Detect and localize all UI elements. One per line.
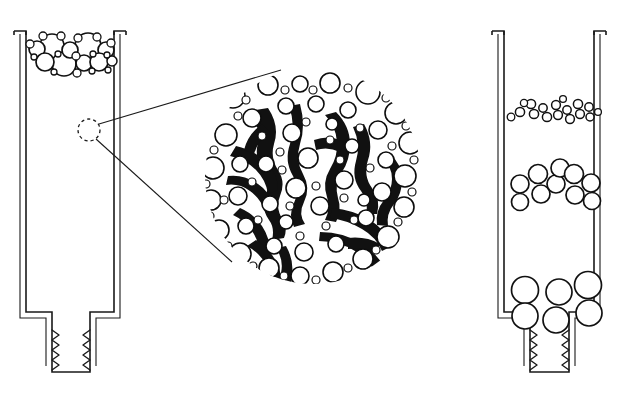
detail-bubble [278, 98, 294, 114]
detail-bubble [210, 146, 218, 154]
detail-bubble [358, 210, 374, 226]
detail-bubble [353, 249, 373, 269]
bubble [55, 51, 61, 57]
diagram-canvas [0, 0, 621, 410]
detail-bubble [312, 276, 320, 284]
detail-bubble [309, 86, 317, 94]
bubble [546, 279, 572, 305]
figure-root [0, 0, 621, 410]
detail-bubble [266, 238, 282, 254]
bubble [582, 174, 600, 192]
bubble [573, 99, 582, 108]
detail-bubble [248, 178, 256, 186]
detail-bubble [372, 246, 380, 254]
detail-bubble [320, 73, 340, 93]
detail-bubble [340, 194, 348, 202]
detail-bubble [378, 152, 394, 168]
detail-bubble [394, 165, 416, 187]
bubble [107, 39, 115, 47]
detail-bubble [388, 142, 396, 150]
bubble [584, 193, 601, 210]
bubble [547, 175, 565, 193]
detail-bubble [326, 118, 338, 130]
bubble [566, 186, 584, 204]
detail-bubble [308, 96, 324, 112]
detail-bubble [286, 202, 294, 210]
detail-bubble [292, 76, 308, 92]
detail-bubble [335, 171, 353, 189]
bubble [104, 52, 110, 58]
right-tube-large-bubble-band [512, 272, 603, 334]
detail-bubble [298, 148, 318, 168]
detail-bubble [242, 96, 250, 104]
detail-bubble [326, 136, 334, 144]
detail-bubble [302, 118, 310, 126]
bubble [563, 106, 571, 114]
detail-bubble [323, 262, 343, 282]
detail-bubble [295, 243, 313, 261]
bubble [554, 111, 563, 120]
bubble [31, 54, 37, 60]
detail-bubble [215, 124, 237, 146]
bubble [543, 307, 569, 333]
detail-bubble [366, 164, 374, 172]
detail-bubble [296, 232, 304, 240]
detail-bubble [373, 183, 391, 201]
bubble [89, 68, 95, 74]
detail-bubble [344, 264, 352, 272]
detail-bubble [278, 166, 286, 174]
bubble [57, 32, 65, 40]
bubble [51, 69, 57, 75]
bubble [575, 272, 602, 299]
bubble [36, 53, 54, 71]
detail-bubble [369, 121, 387, 139]
detail-bubble [258, 132, 266, 140]
bubble [512, 303, 538, 329]
bubble [39, 32, 47, 40]
detail-bubble [286, 178, 306, 198]
detail-bubble [258, 156, 274, 172]
bubble [512, 194, 529, 211]
bubble [595, 109, 602, 116]
bubble [512, 277, 539, 304]
detail-bubble [311, 197, 329, 215]
detail-bubble [283, 124, 301, 142]
detail-bubble [408, 188, 416, 196]
detail-bubble [229, 187, 247, 205]
bubble [529, 165, 548, 184]
bubble [93, 33, 101, 41]
bubble [529, 109, 538, 118]
detail-bubble [394, 197, 414, 217]
detail-bubble [377, 226, 399, 248]
detail-bubble [394, 218, 402, 226]
bubble [565, 165, 584, 184]
detail-bubble [254, 216, 262, 224]
detail-bubble [410, 156, 418, 164]
bubble [72, 52, 80, 60]
detail-bubble [220, 196, 228, 204]
detail-bubble [234, 112, 242, 120]
bubble [542, 112, 551, 121]
detail-bubble [350, 216, 358, 224]
bubble [105, 67, 111, 73]
bubble [507, 113, 515, 121]
detail-bubble [356, 124, 364, 132]
detail-bubble [328, 236, 344, 252]
bubble [511, 175, 529, 193]
detail-bubble [279, 215, 293, 229]
bubble [585, 103, 593, 111]
bubble [552, 101, 561, 110]
detail-bubble [243, 109, 261, 127]
bubble [576, 300, 602, 326]
detail-bubble [238, 218, 254, 234]
detail-bubble [344, 84, 352, 92]
bubble [520, 99, 527, 106]
detail-bubble [262, 196, 278, 212]
detail-bubble [340, 102, 356, 118]
detail-bubble [358, 194, 370, 206]
detail-bubble [232, 156, 248, 172]
bubble [26, 40, 34, 48]
detail-bubble [276, 148, 284, 156]
detail-bubble [322, 222, 330, 230]
bubble [560, 96, 567, 103]
